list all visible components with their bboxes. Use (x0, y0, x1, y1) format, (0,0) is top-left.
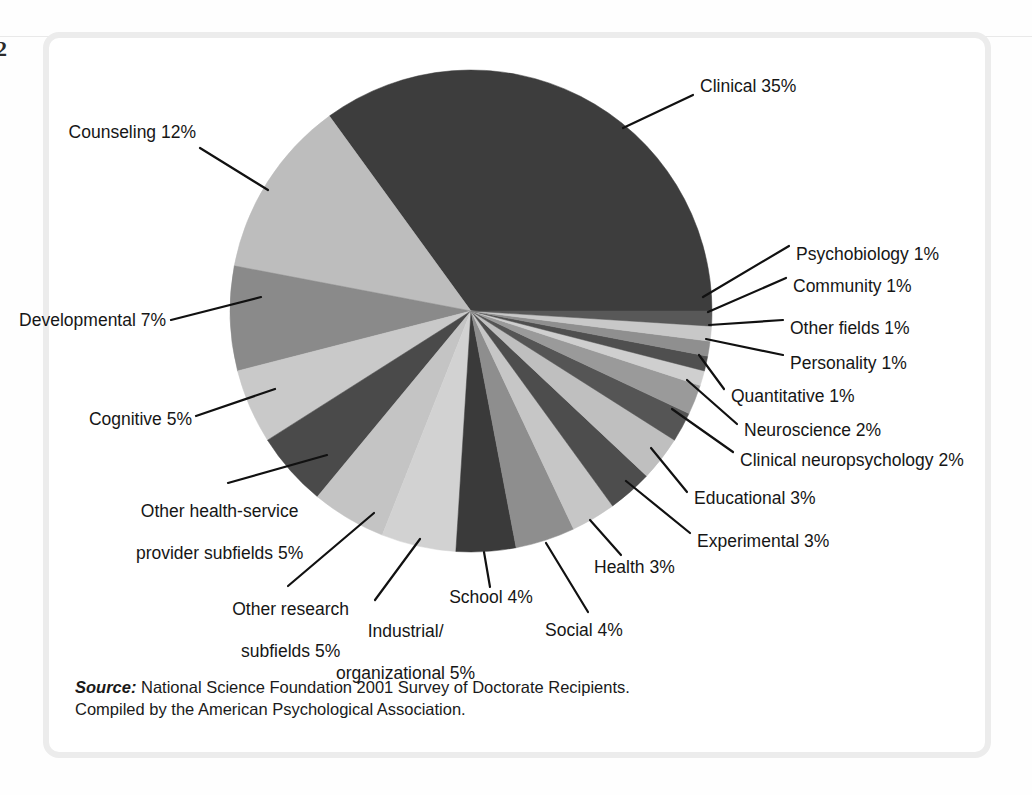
label-cognitive: Cognitive 5% (0, 409, 192, 430)
label-educational: Educational 3% (694, 488, 816, 509)
leader-line-educational (651, 448, 687, 492)
leader-line-psychobiology (703, 246, 789, 297)
label-other-health-service-line1: Other health-service (141, 501, 299, 521)
leader-line-personality (706, 339, 783, 355)
source-note-line2: Compiled by the American Psychological A… (75, 698, 715, 720)
label-school: School 4% (435, 587, 547, 608)
label-neuroscience: Neuroscience 2% (744, 420, 881, 441)
leader-line-clinical (623, 95, 693, 128)
leader-line-counseling (200, 148, 268, 190)
leader-line-community (708, 278, 786, 312)
label-experimental: Experimental 3% (697, 531, 829, 552)
leader-line-industrial (375, 539, 420, 600)
source-note-line1: Source: National Science Foundation 2001… (75, 676, 715, 698)
label-industrial-line1: Industrial/ (368, 621, 444, 641)
source-label: Source: (75, 678, 136, 696)
label-health: Health 3% (594, 557, 675, 578)
source-note: Source: National Science Foundation 2001… (75, 676, 715, 720)
label-personality: Personality 1% (790, 353, 907, 374)
leader-line-experimental (626, 481, 690, 533)
label-other-health-service: Other health-service provider subfields … (90, 480, 320, 585)
label-developmental: Developmental 7% (0, 310, 166, 331)
label-clinical-neuropsychology: Clinical neuropsychology 2% (740, 450, 964, 471)
label-clinical: Clinical 35% (700, 76, 796, 97)
label-quantitative: Quantitative 1% (731, 386, 855, 407)
label-social: Social 4% (545, 620, 623, 641)
leader-line-clinical-neuro (672, 409, 733, 452)
label-counseling: Counseling 12% (0, 122, 196, 143)
label-community: Community 1% (793, 276, 912, 297)
leader-line-neuroscience (687, 380, 737, 424)
label-other-health-service-line2: provider subfields 5% (136, 543, 303, 563)
leader-line-other-fields (709, 320, 783, 325)
leader-line-social (546, 543, 588, 612)
label-psychobiology: Psychobiology 1% (796, 244, 939, 265)
source-text-line1: National Science Foundation 2001 Survey … (136, 678, 629, 696)
page-canvas: 2 (0, 0, 1032, 795)
label-other-fields: Other fields 1% (790, 318, 910, 339)
leader-line-school (484, 552, 490, 587)
leader-line-health (590, 520, 621, 555)
